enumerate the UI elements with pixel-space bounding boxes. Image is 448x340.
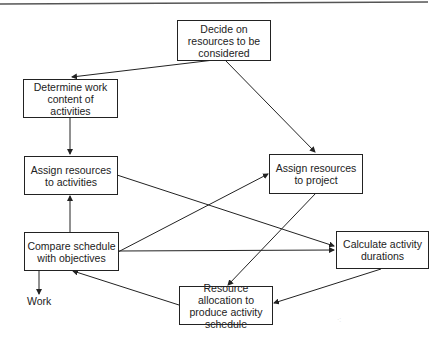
- edge-decide-assign-project: [225, 60, 315, 152]
- node-compare-schedule: Compare schedule with objectives: [24, 232, 119, 271]
- edge-decide-determine: [72, 60, 214, 77]
- node-decide-resources-label: Decide on resources to be considered: [180, 23, 268, 59]
- edge-assign-project-allocation: [228, 193, 316, 285]
- node-calculate-durations: Calculate activity durations: [336, 231, 429, 269]
- node-calculate-durations-label: Calculate activity durations: [339, 238, 426, 262]
- top-rule: [0, 2, 428, 4]
- edge-compare-assign-project: [118, 174, 268, 252]
- node-assign-resources-activities-label: Assign resources to activities: [27, 164, 115, 188]
- node-determine-work-content-label: Determine work content of activities: [26, 81, 115, 117]
- edge-calculate-allocation: [274, 269, 381, 303]
- node-determine-work-content: Determine work content of activities: [23, 79, 118, 118]
- node-assign-resources-activities: Assign resources to activities: [24, 156, 118, 195]
- edge-allocation-compare: [73, 271, 179, 305]
- edge-compare-calculate: [118, 250, 334, 251]
- node-resource-allocation-label: Resource allocation to produce activity …: [182, 282, 270, 330]
- flowchart-canvas: ·: Decide on resources to be considered …: [0, 0, 448, 340]
- node-resource-allocation: Resource allocation to produce activity …: [179, 286, 273, 325]
- output-work-label: Work: [27, 295, 51, 307]
- scan-artifact: ·:: [337, 316, 341, 323]
- node-assign-resources-project-label: Assign resources to project: [272, 162, 360, 186]
- node-assign-resources-project: Assign resources to project: [269, 154, 363, 194]
- node-decide-resources: Decide on resources to be considered: [177, 20, 271, 61]
- node-compare-schedule-label: Compare schedule with objectives: [27, 240, 116, 264]
